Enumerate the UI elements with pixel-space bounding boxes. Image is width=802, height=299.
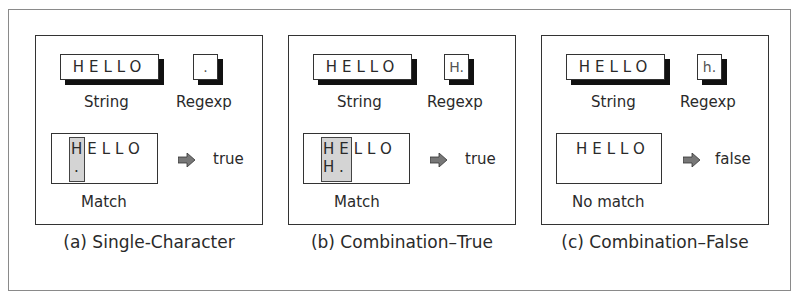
arrow-right-icon bbox=[430, 153, 447, 167]
match-label: Match bbox=[81, 193, 127, 211]
regexp-label: Regexp bbox=[427, 93, 483, 111]
match-regexp: H. bbox=[323, 158, 349, 176]
regexp-box: H. bbox=[444, 54, 469, 80]
regexp-label: Regexp bbox=[176, 93, 232, 111]
arrow-right-icon bbox=[178, 153, 195, 167]
string-box: HELLO bbox=[313, 54, 412, 80]
match-label: Match bbox=[334, 193, 380, 211]
match-box: HELLO H. bbox=[303, 133, 410, 184]
panel-combination-false: HELLO h. String Regexp HELLO false No ma… bbox=[541, 35, 769, 225]
match-box: HELLO . bbox=[51, 133, 158, 184]
regexp-label: Regexp bbox=[680, 93, 736, 111]
panel-single-character: HELLO . String Regexp HELLO . true Match bbox=[35, 35, 263, 225]
regexp-box: . bbox=[193, 54, 218, 80]
caption-b: (b) Combination–True bbox=[277, 232, 527, 252]
result-value: true bbox=[213, 150, 244, 168]
string-box: HELLO bbox=[60, 54, 159, 80]
arrow-right-icon bbox=[683, 153, 700, 167]
regexp-box: h. bbox=[697, 54, 722, 80]
result-value: false bbox=[715, 150, 751, 168]
match-string: HELLO bbox=[576, 140, 650, 158]
match-string: HELLO bbox=[323, 140, 397, 158]
match-regexp: . bbox=[74, 158, 84, 176]
string-label: String bbox=[84, 93, 129, 111]
caption-c: (c) Combination–False bbox=[530, 232, 780, 252]
no-match-label: No match bbox=[572, 193, 645, 211]
panel-combination-true: HELLO H. String Regexp HELLO H. true Mat… bbox=[288, 35, 516, 225]
match-string: HELLO bbox=[71, 140, 145, 158]
string-box: HELLO bbox=[566, 54, 665, 80]
result-value: true bbox=[465, 150, 496, 168]
match-box: HELLO bbox=[556, 133, 662, 184]
caption-a: (a) Single-Character bbox=[24, 232, 274, 252]
string-label: String bbox=[591, 93, 636, 111]
string-label: String bbox=[337, 93, 382, 111]
